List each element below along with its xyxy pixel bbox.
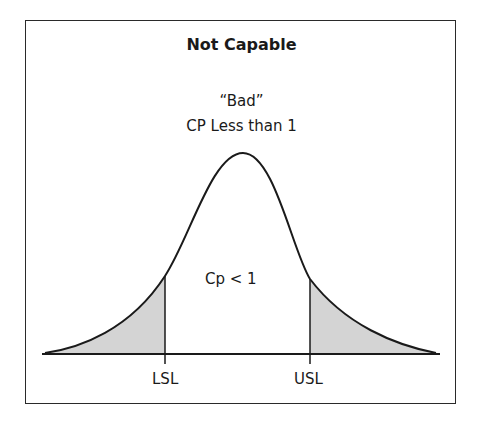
- bell-curve-diagram: [0, 0, 483, 431]
- left-tail-shading: [45, 276, 165, 353]
- right-tail-shading: [310, 279, 436, 353]
- usl-label: USL: [294, 370, 323, 388]
- lsl-label: LSL: [152, 370, 178, 388]
- normal-curve: [45, 153, 436, 353]
- subtitle-quote: “Bad”: [0, 92, 483, 110]
- subtitle: CP Less than 1: [0, 117, 483, 135]
- cp-label: Cp < 1: [205, 270, 257, 288]
- diagram-title: Not Capable: [0, 35, 483, 54]
